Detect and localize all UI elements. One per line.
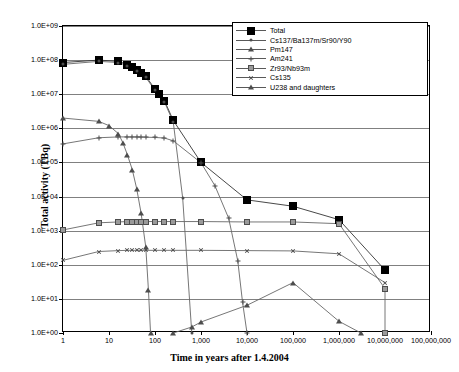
series-marker [148, 331, 154, 336]
series-marker [60, 227, 66, 233]
x-axis-tick-label: 100,000 [280, 337, 306, 344]
series-marker [124, 152, 130, 157]
series-marker [171, 248, 176, 253]
legend-marker-icon [236, 54, 266, 63]
series-marker [135, 69, 138, 72]
series-marker [243, 196, 251, 204]
y-axis-tick-label: 1.0E+05 [31, 159, 58, 166]
x-axis-tick-label: 1,000 [192, 337, 210, 344]
legend-item[interactable]: Pm147 [236, 45, 423, 54]
x-axis-title: Time in years after 1.4.2004 [0, 352, 459, 363]
x-axis-tick [431, 331, 432, 335]
series-line [63, 137, 247, 333]
series-marker [190, 332, 193, 335]
chart-legend: TotalCs137/Ba137m/Sr90/Y90Pm147Am241Zr93… [232, 22, 428, 96]
series-marker [381, 266, 389, 274]
x-axis-tick-label: 10,000 [236, 337, 258, 344]
series-marker [115, 219, 121, 225]
legend-item[interactable]: Total [236, 26, 423, 35]
series-marker [172, 121, 175, 124]
series-marker [198, 320, 204, 325]
legend-item-label: Total [266, 26, 285, 35]
series-marker [161, 219, 167, 225]
legend-item[interactable]: Am241 [236, 54, 423, 63]
legend-item-label: Am241 [266, 54, 293, 63]
legend-item-label: Cs137/Ba137m/Sr90/Y90 [266, 36, 352, 45]
series-marker [199, 160, 204, 165]
x-axis-tick-label: 100,000,000 [411, 337, 451, 344]
y-axis-tick-label: 1.0E+02 [31, 261, 58, 268]
series-marker [154, 89, 157, 92]
series-marker [117, 61, 120, 64]
series-marker [337, 251, 342, 256]
series-marker [143, 248, 148, 253]
legend-item[interactable]: Zr93/Nb93m [236, 64, 423, 73]
series-marker [120, 140, 126, 145]
series-marker [96, 119, 102, 124]
series-marker [181, 197, 184, 200]
series-marker [116, 134, 121, 139]
series-marker [245, 248, 250, 253]
series-marker [162, 248, 167, 253]
series-marker [245, 331, 250, 336]
series-marker [116, 248, 121, 253]
series-marker [129, 167, 135, 172]
series-marker [291, 248, 296, 253]
series-marker [289, 202, 297, 210]
series-marker [212, 183, 217, 188]
series-marker [199, 248, 204, 253]
series-marker [290, 219, 296, 225]
series-marker [163, 100, 166, 103]
y-axis-tick-label: 1.0E+08 [31, 57, 58, 64]
legend-item[interactable]: Cs135 [236, 73, 423, 82]
series-marker [226, 216, 231, 221]
y-axis-tick-label: 1.0E+00 [31, 329, 58, 336]
series-marker [143, 135, 148, 140]
series-marker [96, 249, 101, 254]
series-marker [145, 288, 151, 293]
x-axis-tick-label: 100 [149, 337, 161, 344]
series-marker [143, 219, 149, 225]
series-line [63, 222, 385, 333]
series-marker [62, 63, 65, 66]
series-marker [244, 219, 250, 225]
series-marker [96, 135, 101, 140]
legend-marker-icon [236, 64, 266, 73]
legend-item[interactable]: Cs137/Ba137m/Sr90/Y90 [236, 35, 423, 44]
y-axis-tick-label: 1.0E+06 [31, 125, 58, 132]
y-axis-tick-label: 1.0E+07 [31, 91, 58, 98]
series-marker [144, 76, 147, 79]
series-line [63, 61, 192, 333]
legend-marker-icon [236, 26, 266, 35]
series-marker [244, 303, 250, 308]
y-axis-tick-label: 1.0E+03 [31, 227, 58, 234]
series-marker [138, 211, 144, 216]
x-axis-tick-label: 10,000,000 [367, 337, 403, 344]
series-marker [358, 331, 364, 336]
y-axis-tick-label: 1.0E+01 [31, 295, 58, 302]
series-line [173, 283, 361, 333]
series-marker [126, 64, 129, 67]
x-axis-tick-label: 10 [105, 337, 113, 344]
legend-item-label: Zr93/Nb93m [266, 64, 310, 73]
series-marker [235, 258, 240, 263]
legend-item-label: Cs135 [266, 73, 291, 82]
series-marker [61, 141, 66, 146]
y-axis-title: Total activity (TBq) [39, 144, 50, 228]
series-marker [198, 219, 204, 225]
legend-item[interactable]: U238 and daughters [236, 82, 423, 91]
legend-marker-icon [236, 83, 266, 92]
legend-marker-icon [236, 73, 266, 82]
series-marker [162, 136, 167, 141]
y-axis-tick-label: 1.0E+04 [31, 193, 58, 200]
legend-item-label: U238 and daughters [266, 83, 335, 92]
y-axis-tick-label: 1.0E+09 [31, 22, 58, 29]
series-marker [153, 248, 158, 253]
x-axis-tick-label: 1 [61, 337, 65, 344]
series-marker [336, 221, 342, 227]
series-marker [170, 219, 176, 225]
series-marker [96, 220, 102, 226]
series-marker [97, 60, 100, 63]
series-marker [189, 324, 195, 329]
legend-marker-icon [236, 36, 266, 45]
